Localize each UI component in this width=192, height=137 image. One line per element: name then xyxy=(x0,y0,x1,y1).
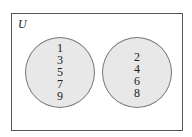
element: 9 xyxy=(57,90,63,102)
set-odd-circle: 1 3 5 7 9 xyxy=(25,37,95,108)
element: 8 xyxy=(134,87,140,99)
venn-diagram: U 1 3 5 7 9 2 4 6 8 xyxy=(0,0,192,137)
set-even-elements: 2 4 6 8 xyxy=(103,51,171,99)
set-even-circle: 2 4 6 8 xyxy=(102,37,172,108)
universe-label: U xyxy=(18,17,27,32)
set-odd-elements: 1 3 5 7 9 xyxy=(26,42,94,102)
